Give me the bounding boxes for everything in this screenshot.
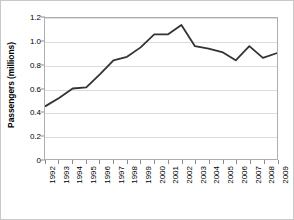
x-tick-mark bbox=[58, 160, 59, 164]
line-series-svg bbox=[45, 18, 277, 159]
x-tick-mark bbox=[209, 160, 210, 164]
x-tick-label: 2004 bbox=[212, 166, 221, 184]
x-tick-label: 2003 bbox=[199, 166, 208, 184]
x-tick-label: 2006 bbox=[240, 166, 249, 184]
x-tick-mark bbox=[223, 160, 224, 164]
y-tick-label: 0 bbox=[15, 156, 41, 165]
x-tick-mark bbox=[168, 160, 169, 164]
y-tick-label: 0.6 bbox=[15, 84, 41, 93]
x-tick-label: 2001 bbox=[171, 166, 180, 184]
x-tick-label: 2009 bbox=[281, 166, 290, 184]
x-tick-mark bbox=[45, 160, 46, 164]
x-tick-mark bbox=[154, 160, 155, 164]
x-tick-label: 1992 bbox=[48, 166, 57, 184]
x-tick-mark bbox=[278, 160, 279, 164]
x-tick-mark bbox=[264, 160, 265, 164]
x-tick-mark bbox=[127, 160, 128, 164]
plot-area bbox=[44, 17, 278, 160]
x-tick-mark bbox=[182, 160, 183, 164]
x-tick-label: 2002 bbox=[185, 166, 194, 184]
x-tick-label: 1997 bbox=[117, 166, 126, 184]
x-tick-mark bbox=[236, 160, 237, 164]
x-tick-mark bbox=[86, 160, 87, 164]
y-tick-label: 0.8 bbox=[15, 60, 41, 69]
x-tick-label: 1996 bbox=[103, 166, 112, 184]
x-tick-label: 2005 bbox=[226, 166, 235, 184]
y-tick-label: 1.0 bbox=[15, 36, 41, 45]
y-tick-label: 0.2 bbox=[15, 132, 41, 141]
x-tick-label: 1994 bbox=[75, 166, 84, 184]
x-tick-label: 2000 bbox=[158, 166, 167, 184]
x-tick-mark bbox=[113, 160, 114, 164]
passengers-line bbox=[45, 25, 276, 106]
x-tick-mark bbox=[250, 160, 251, 164]
x-tick-mark bbox=[195, 160, 196, 164]
x-tick-label: 2007 bbox=[254, 166, 263, 184]
y-tick-label: 1.2 bbox=[15, 13, 41, 22]
x-tick-label: 2008 bbox=[267, 166, 276, 184]
x-tick-mark bbox=[140, 160, 141, 164]
x-axis-tick-labels: 1992199319941995199619971998199920002001… bbox=[44, 160, 278, 220]
x-tick-label: 1999 bbox=[144, 166, 153, 184]
y-tick-label: 0.4 bbox=[15, 108, 41, 117]
x-tick-mark bbox=[99, 160, 100, 164]
x-tick-label: 1995 bbox=[89, 166, 98, 184]
x-tick-label: 1993 bbox=[62, 166, 71, 184]
chart-figure: Passengers (millions) 00.20.40.60.81.01.… bbox=[0, 0, 294, 220]
x-tick-mark bbox=[72, 160, 73, 164]
y-axis-tick-labels: 00.20.40.60.81.01.2 bbox=[11, 17, 41, 160]
x-tick-label: 1998 bbox=[130, 166, 139, 184]
